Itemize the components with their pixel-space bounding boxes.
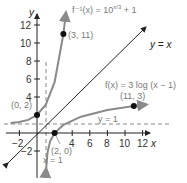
y-tick-label: 12	[20, 20, 32, 31]
point-3-11	[60, 31, 66, 37]
function-inverse-graph: −2 4 6 8 10 12 −2 4 6 8 10 12 x y (3, 11…	[0, 0, 187, 183]
y-tick-label: 10	[20, 38, 32, 49]
x-tick-label: 8	[104, 138, 110, 149]
point-11-3	[131, 103, 137, 109]
identity-line-label: y = x	[149, 39, 172, 50]
y-axis-label: y	[28, 7, 35, 18]
point-label-0-2: (0, 2)	[11, 100, 32, 110]
x-tick-label: 6	[87, 138, 93, 149]
point-label-3-11: (3, 11)	[68, 30, 93, 40]
vertical-asymptote-label: x = 1	[43, 155, 63, 165]
point-2-0	[52, 130, 58, 136]
horizontal-asymptote-label: y = 1	[98, 114, 118, 124]
point-label-11-3: (11, 3)	[120, 91, 145, 101]
x-axis-label: x	[150, 138, 157, 149]
x-tick-label: 10	[119, 138, 131, 149]
inverse-function-label: f⁻¹(x) = 10x/3 + 1	[72, 4, 137, 15]
y-tick-label: 8	[26, 56, 32, 67]
leader-line-2-0	[56, 136, 60, 144]
y-tick-label: −2	[21, 146, 33, 157]
point-0-2	[34, 112, 40, 118]
y-tick-label: 6	[26, 74, 32, 85]
log-function-label: f(x) = 3 log (x − 1)	[105, 80, 176, 90]
x-tick-label: 12	[137, 138, 149, 149]
